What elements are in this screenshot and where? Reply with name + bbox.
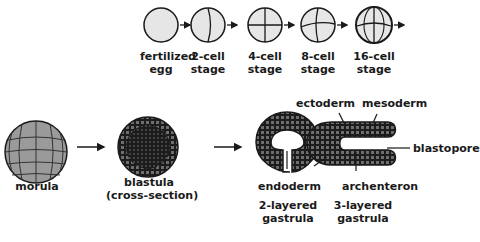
four-cell-label: 4-cell stage xyxy=(245,50,285,76)
two-layered-gastrula-label: 2-layered gastrula xyxy=(258,199,318,225)
label-line: 4-cell xyxy=(245,50,285,63)
label-line: fertilized xyxy=(140,50,182,63)
ectoderm-label: ectoderm xyxy=(296,97,355,110)
four-cell-icon xyxy=(248,8,282,42)
label-line: 2-layered xyxy=(258,199,318,212)
eight-cell-label: 8-cell stage xyxy=(298,50,338,76)
label-line: stage xyxy=(298,63,338,76)
archenteron-label: archenteron xyxy=(342,180,418,193)
sixteen-cell-label: 16-cell stage xyxy=(352,50,396,76)
label-line: 2-cell xyxy=(188,50,228,63)
fertilized-egg-label: fertilized egg xyxy=(140,50,182,76)
label-line: stage xyxy=(352,63,396,76)
two-cell-icon xyxy=(191,8,225,42)
label-line: gastrula xyxy=(333,212,393,225)
morula-label: morula xyxy=(10,180,64,193)
two-cell-label: 2-cell stage xyxy=(188,50,228,76)
eight-cell-icon xyxy=(301,8,335,42)
fertilized-egg-icon xyxy=(144,8,178,42)
label-line: egg xyxy=(140,63,182,76)
mesoderm-label: mesoderm xyxy=(362,97,427,110)
label-line: gastrula xyxy=(258,212,318,225)
three-layered-gastrula-icon xyxy=(307,122,396,165)
label-line: 8-cell xyxy=(298,50,338,63)
label-line: (cross-section) xyxy=(106,189,192,202)
sixteen-cell-icon xyxy=(356,7,392,43)
label-line: 3-layered xyxy=(333,199,393,212)
blastula-label: blastula (cross-section) xyxy=(106,176,192,202)
label-line: stage xyxy=(245,63,285,76)
label-line: blastula xyxy=(106,176,192,189)
blastula-icon xyxy=(118,117,178,177)
three-layered-gastrula-label: 3-layered gastrula xyxy=(333,199,393,225)
morula-icon xyxy=(5,121,67,183)
label-line: stage xyxy=(188,63,228,76)
blastopore-label: blastopore xyxy=(413,142,480,155)
label-line: 16-cell xyxy=(352,50,396,63)
endoderm-label: endoderm xyxy=(258,180,321,193)
